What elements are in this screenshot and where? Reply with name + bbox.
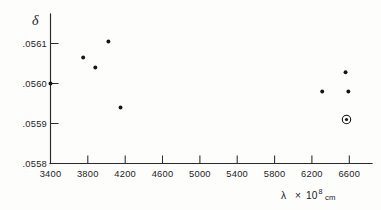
x-tick-label-0: 3400 — [40, 169, 62, 179]
x-tick-label-5: 5400 — [226, 169, 248, 179]
data-point — [346, 90, 350, 94]
y-tick-label-1: .0559 — [22, 119, 47, 129]
x-axis-title-unit: cm — [325, 193, 335, 202]
data-point — [344, 70, 348, 74]
x-tick-label-4: 5000 — [189, 169, 211, 179]
data-point — [81, 56, 85, 60]
x-axis-title: λ × 10 8 cm — [281, 187, 335, 202]
y-axis-title: δ — [32, 13, 39, 28]
y-tick-label-2: .0560 — [22, 79, 47, 89]
marker-center-dot — [345, 118, 348, 121]
x-tick-label-8: 6600 — [338, 169, 360, 179]
x-tick-label-7: 6200 — [301, 169, 323, 179]
chart-figure: .0558 .0559 .0560 .0561 δ 3400 3800 4200… — [0, 0, 381, 210]
data-point — [119, 106, 123, 110]
y-tick-label-3: .0561 — [22, 39, 47, 49]
data-point-circled — [342, 115, 350, 123]
x-axis-title-mantissa: 10 — [306, 190, 318, 201]
data-point — [93, 66, 97, 70]
x-axis-title-exponent: 8 — [319, 187, 323, 196]
y-tick-marks — [51, 44, 59, 164]
x-tick-marks — [51, 156, 350, 164]
x-tick-label-3: 4600 — [152, 169, 174, 179]
x-axis-title-symbol: λ — [281, 190, 286, 201]
x-tick-label-2: 4200 — [114, 169, 136, 179]
data-point — [49, 82, 53, 86]
y-tick-labels: .0558 .0559 .0560 .0561 — [22, 39, 47, 169]
x-tick-label-6: 5800 — [264, 169, 286, 179]
x-axis-title-times: × — [295, 190, 301, 201]
data-point — [320, 90, 324, 94]
data-point — [106, 40, 110, 44]
x-tick-label-1: 3800 — [77, 169, 99, 179]
data-points-layer — [49, 40, 351, 124]
x-tick-labels: 3400 3800 4200 4600 5000 5400 5800 6200 … — [40, 169, 360, 179]
scatter-plot: .0558 .0559 .0560 .0561 δ 3400 3800 4200… — [0, 0, 381, 210]
y-tick-label-0: .0558 — [22, 159, 47, 169]
